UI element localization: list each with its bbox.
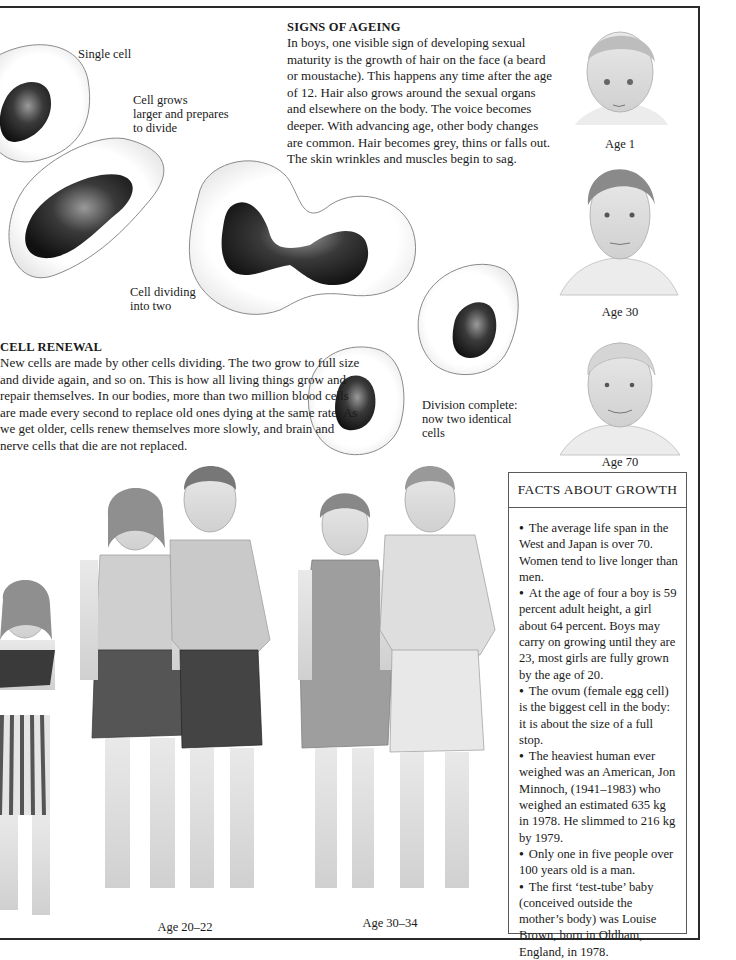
caption-cell-dividing: Cell dividing into two bbox=[130, 285, 196, 313]
daughter-cell-top bbox=[418, 264, 518, 374]
caption-single-cell: Single cell bbox=[78, 47, 131, 61]
caption-line: to divide bbox=[133, 121, 229, 135]
figure-label-age-30-34: Age 30–34 bbox=[345, 916, 435, 931]
single-cell bbox=[0, 45, 90, 162]
signs-of-ageing-heading: SIGNS OF AGEING bbox=[287, 20, 557, 35]
fact-item: The first ‘test-tube’ baby (conceived ou… bbox=[519, 879, 678, 960]
portrait-label-age-70: Age 70 bbox=[590, 455, 650, 470]
caption-line: Division complete: bbox=[422, 398, 517, 412]
caption-line: now two identical bbox=[422, 412, 517, 426]
portrait-label-age-1: Age 1 bbox=[595, 137, 645, 152]
fact-item: The average life span in the West and Ja… bbox=[519, 520, 678, 585]
portrait-age-1 bbox=[575, 32, 668, 125]
caption-line: larger and prepares bbox=[133, 107, 229, 121]
figure-woman-30-34 bbox=[298, 493, 394, 888]
portrait-age-70 bbox=[560, 343, 680, 455]
cell-renewal-text: New cells are made by other cells dividi… bbox=[0, 355, 365, 455]
dividing-cell bbox=[189, 161, 415, 315]
facts-about-growth-box: FACTS ABOUT GROWTH The average life span… bbox=[508, 472, 687, 934]
fact-item: Only one in five people over 100 years o… bbox=[519, 846, 678, 879]
signs-of-ageing-section: SIGNS OF AGEING In boys, one visible sig… bbox=[287, 20, 557, 168]
cell-renewal-section: CELL RENEWAL New cells are made by other… bbox=[0, 340, 365, 455]
figure-man-30-34 bbox=[380, 466, 495, 888]
caption-line: Cell grows bbox=[133, 93, 229, 107]
figure-label-age-20-22: Age 20–22 bbox=[140, 920, 230, 935]
fact-item: At the age of four a boy is 59 percent a… bbox=[519, 585, 678, 683]
facts-heading: FACTS ABOUT GROWTH bbox=[509, 473, 686, 508]
caption-line: into two bbox=[130, 299, 196, 313]
cell-renewal-heading: CELL RENEWAL bbox=[0, 340, 365, 355]
fact-item: The ovum (female egg cell) is the bigges… bbox=[519, 683, 678, 748]
signs-of-ageing-text: In boys, one visible sign of developing … bbox=[287, 35, 557, 168]
figure-child bbox=[0, 580, 55, 915]
portrait-age-30 bbox=[560, 169, 678, 295]
caption-division-complete: Division complete: now two identical cel… bbox=[422, 398, 517, 440]
caption-line: Cell dividing bbox=[130, 285, 196, 299]
fact-item: The heaviest human ever weighed was an A… bbox=[519, 748, 678, 846]
caption-cell-grows: Cell grows larger and prepares to divide bbox=[133, 93, 229, 135]
portrait-label-age-30: Age 30 bbox=[590, 305, 650, 320]
facts-list: The average life span in the West and Ja… bbox=[509, 508, 686, 960]
caption-line: cells bbox=[422, 426, 517, 440]
figure-man-20-22 bbox=[170, 466, 270, 888]
